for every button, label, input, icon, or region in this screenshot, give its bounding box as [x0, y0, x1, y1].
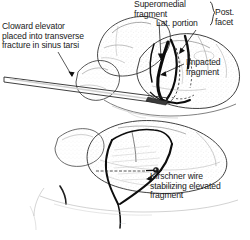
label-superomedial-fragment: Superomedial fragment [134, 0, 186, 19]
label-kirschner-wire: Kirschner wire stabilizing elevated frag… [150, 172, 221, 201]
label-cloward-elevator: Cloward elevator placed into transverse … [2, 22, 84, 51]
leader-cloward [58, 52, 75, 77]
label-impacted-fragment: Impacted fragment [186, 58, 221, 77]
surgical-illustration-figure: Cloward elevator placed into transverse … [0, 0, 250, 240]
label-lateral-portion: Lat. portion [156, 19, 198, 29]
artist-signature: ₓₓₓ [120, 218, 126, 226]
label-posterior-facet: Post. facet [215, 8, 234, 27]
